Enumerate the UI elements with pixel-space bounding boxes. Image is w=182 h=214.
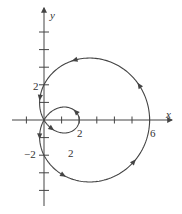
y-tick-label-2: 2 — [33, 81, 39, 92]
plot-canvas — [0, 0, 182, 214]
direction-arrow-icon — [37, 133, 42, 139]
region-label: 2 — [68, 148, 74, 159]
polar-plot: x y 2 6 2 −2 2 — [0, 0, 182, 214]
direction-arrow-icon — [135, 81, 143, 89]
y-axis-label: y — [50, 10, 55, 21]
x-tick-label-6: 6 — [150, 128, 156, 139]
y-tick-label-neg2: −2 — [24, 149, 36, 160]
limacon-curve — [37, 57, 150, 182]
direction-arrow-icon — [59, 171, 67, 178]
x-axis-label: x — [166, 109, 171, 120]
direction-arrow-icon — [71, 57, 78, 64]
x-tick-label-2: 2 — [77, 128, 83, 139]
